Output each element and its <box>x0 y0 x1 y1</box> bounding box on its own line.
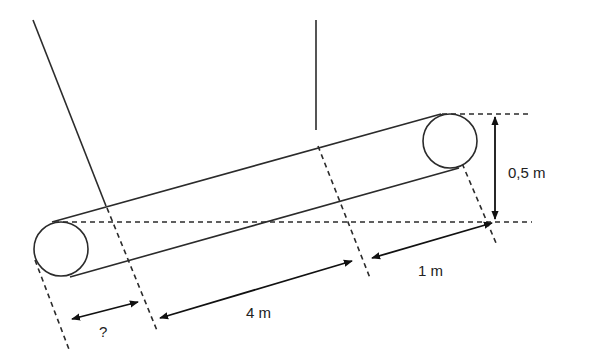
unknown-length-arrow <box>72 302 138 319</box>
right-end-circle <box>423 114 477 168</box>
length-4m-label: 4 m <box>246 304 271 321</box>
section-line-2 <box>107 208 158 333</box>
cylinder-diagram: 0,5 m 4 m 1 m ? <box>0 0 590 363</box>
section-line-3 <box>318 146 370 278</box>
unknown-length-label: ? <box>99 323 107 340</box>
length-1m-label: 1 m <box>418 262 443 279</box>
one-meter-arrow <box>372 223 492 258</box>
left-support-line <box>33 20 106 206</box>
height-label: 0,5 m <box>508 164 546 181</box>
left-end-circle <box>34 222 88 276</box>
cylinder-top-edge <box>52 114 441 222</box>
